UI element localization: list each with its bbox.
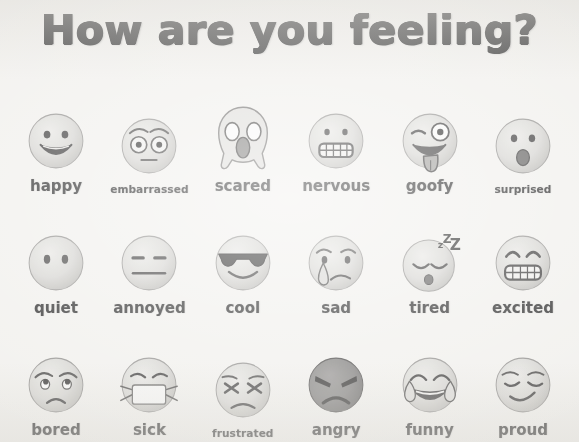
grimacing-face-icon [304, 109, 368, 173]
emoji-cell-frustrated[interactable]: frustrated [201, 358, 285, 439]
smiling-face-with-sunglasses-icon [211, 231, 275, 295]
grinning-face-smiling-eyes-icon [491, 231, 555, 295]
emoji-cell-sad[interactable]: sad [294, 231, 378, 316]
emoji-cell-cool[interactable]: cool [201, 231, 285, 316]
emoji-cell-funny[interactable]: funny [388, 353, 472, 438]
emoji-label: scared [215, 179, 271, 194]
emoji-label: angry [312, 423, 361, 438]
emoji-cell-proud[interactable]: proud [481, 353, 565, 438]
emoji-cell-excited[interactable]: excited [481, 231, 565, 316]
emoji-cell-embarrassed[interactable]: embarrassed [107, 114, 191, 195]
grinning-face-icon [24, 109, 88, 173]
emoji-label: frustrated [212, 428, 273, 439]
emoji-cell-surprised[interactable]: surprised [481, 114, 565, 195]
emoji-grid: happy embarrassed [14, 72, 565, 438]
emoji-label: annoyed [113, 301, 185, 316]
emoji-label: proud [498, 423, 548, 438]
emoji-label: goofy [406, 179, 454, 194]
emoji-cell-tired[interactable]: z Z Z tired [388, 231, 472, 316]
expressionless-face-icon [117, 231, 181, 295]
feelings-chart-sheet: How are you feeling? happy [0, 0, 579, 442]
emoji-label: happy [30, 179, 82, 194]
emoji-label: cool [225, 301, 260, 316]
emoji-cell-goofy[interactable]: goofy [388, 109, 472, 194]
face-with-tears-of-joy-icon [398, 353, 462, 417]
page-title-container: How are you feeling? [0, 6, 579, 54]
emoji-label: sad [321, 301, 351, 316]
confounded-face-icon [211, 358, 275, 422]
face-without-mouth-icon [24, 231, 88, 295]
face-screaming-in-fear-icon [211, 103, 275, 173]
face-with-open-mouth-icon [491, 114, 555, 178]
smirking-face-icon [491, 353, 555, 417]
emoji-label: embarrassed [110, 184, 188, 195]
emoji-cell-angry[interactable]: angry [294, 353, 378, 438]
emoji-label: surprised [494, 184, 551, 195]
emoji-cell-sick[interactable]: sick [107, 353, 191, 438]
page-title: How are you feeling? [41, 6, 538, 54]
emoji-cell-quiet[interactable]: quiet [14, 231, 98, 316]
emoji-cell-nervous[interactable]: nervous [294, 109, 378, 194]
emoji-label: bored [31, 423, 80, 438]
emoji-cell-bored[interactable]: bored [14, 353, 98, 438]
emoji-label: funny [405, 423, 453, 438]
emoji-label: nervous [302, 179, 370, 194]
emoji-cell-scared[interactable]: scared [201, 103, 285, 194]
emoji-label: tired [409, 301, 450, 316]
emoji-label: excited [492, 301, 554, 316]
crying-face-icon [304, 231, 368, 295]
emoji-row: bored sick [14, 316, 565, 438]
emoji-label: sick [133, 423, 166, 438]
emoji-row: quiet annoyed cool [14, 194, 565, 316]
svg-text:Z: Z [449, 236, 460, 254]
emoji-row: happy embarrassed [14, 72, 565, 194]
face-with-medical-mask-icon [117, 353, 181, 417]
sleeping-face-icon: z Z Z [398, 231, 462, 295]
face-with-rolling-eyes-icon [24, 353, 88, 417]
emoji-label: quiet [34, 301, 78, 316]
zany-face-icon [398, 109, 462, 173]
angry-face-icon [304, 353, 368, 417]
emoji-cell-annoyed[interactable]: annoyed [107, 231, 191, 316]
emoji-cell-happy[interactable]: happy [14, 109, 98, 194]
flushed-face-icon [117, 114, 181, 178]
